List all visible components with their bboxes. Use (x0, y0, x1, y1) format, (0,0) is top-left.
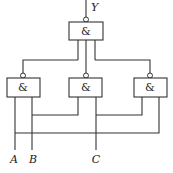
top-gate-symbol: & (81, 25, 91, 38)
output-label-y: Y (91, 1, 100, 14)
input-label-c: C (92, 153, 101, 166)
logic-circuit-diagram: Y & & & & A B C (0, 0, 173, 173)
left-gate-output-wire (23, 60, 78, 73)
c-to-right-gate-wire (96, 97, 142, 115)
right-gate-symbol: & (145, 81, 155, 94)
right-gate-inversion-bubble (148, 73, 153, 78)
top-gate-inversion-bubble (84, 17, 89, 22)
right-gate-output-wire (95, 60, 150, 73)
middle-gate-symbol: & (81, 81, 91, 94)
left-gate-symbol: & (18, 81, 28, 94)
input-label-b: B (28, 153, 37, 166)
middle-gate-inversion-bubble (84, 73, 89, 78)
input-label-a: A (9, 153, 18, 166)
left-gate-inversion-bubble (21, 73, 26, 78)
b-to-middle-gate-wire (32, 97, 78, 115)
